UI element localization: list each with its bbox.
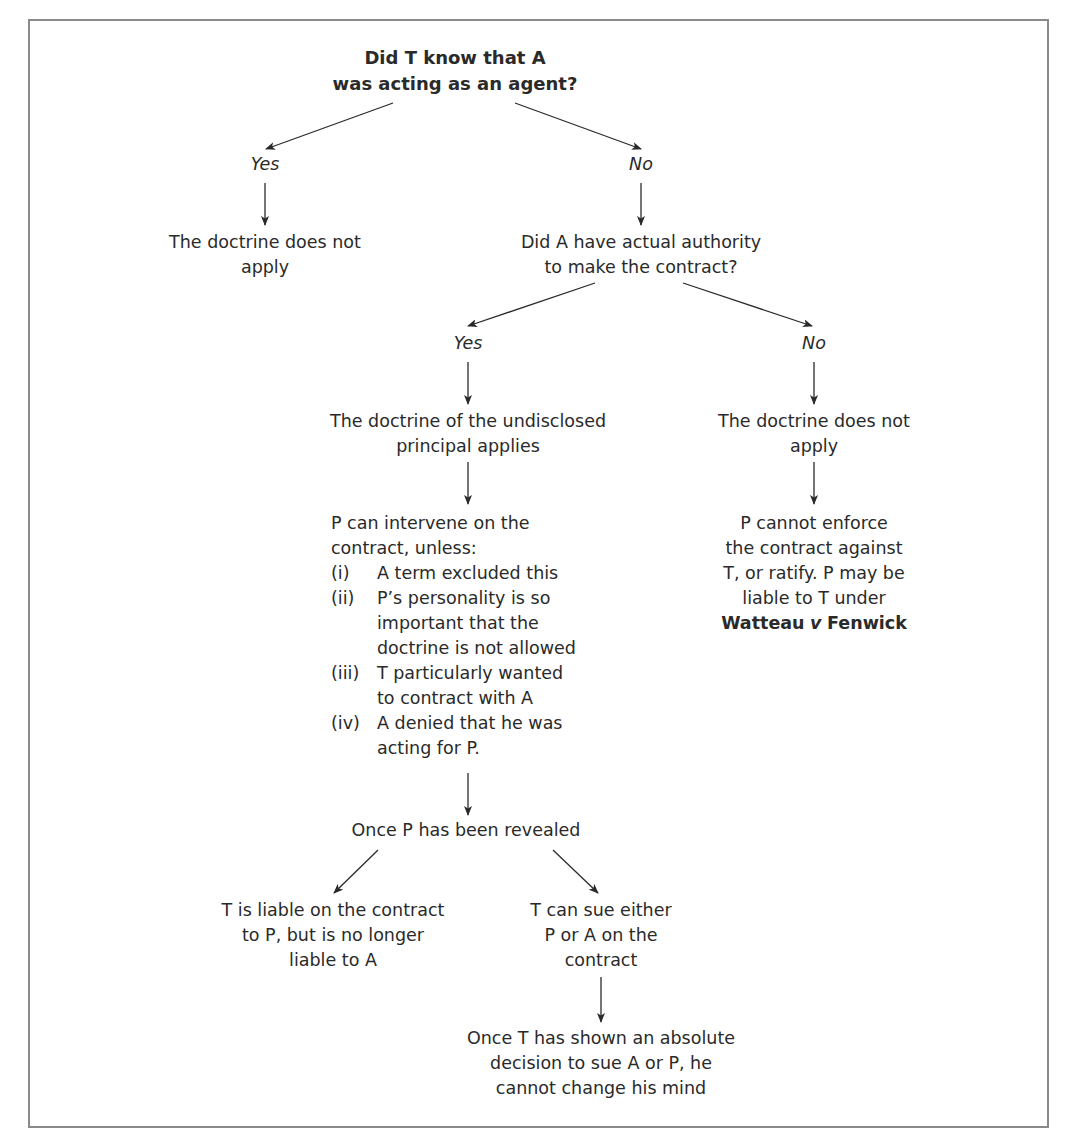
outcome-doctrine-applies: The doctrine of the undisclosed principa… — [330, 409, 606, 459]
branch2-yes-label: Yes — [454, 333, 483, 353]
exception-number: (iv) — [331, 711, 377, 761]
text-line: The doctrine does not — [718, 409, 910, 434]
outcome-t-liable-to-p: T is liable on the contract to P, but is… — [222, 898, 445, 973]
text-line: liable to A — [222, 948, 445, 973]
node-p-revealed: Once P has been revealed — [352, 818, 581, 843]
text-line: A term excluded this — [377, 561, 558, 586]
text-line: P cannot enforce — [721, 511, 907, 536]
text-line: contract — [530, 948, 671, 973]
arrow-authority-to-no — [683, 283, 812, 326]
arrow-authority-to-yes — [468, 283, 595, 326]
text-line: T is liable on the contract — [222, 898, 445, 923]
exception-item: (iv) A denied that he was acting for P. — [331, 711, 576, 761]
outcome-absolute-decision: Once T has shown an absolute decision to… — [467, 1026, 735, 1101]
case-citation: Watteau v Fenwick — [721, 611, 907, 636]
text-line: acting for P. — [377, 736, 562, 761]
text-line: apply — [169, 255, 361, 280]
case-versus: v — [810, 613, 821, 633]
text-line: T particularly wanted — [377, 661, 563, 686]
intro-line: contract, unless: — [331, 536, 576, 561]
exception-item: (ii) P’s personality is so important tha… — [331, 586, 576, 661]
text-line: T, or ratify. P may be — [721, 561, 907, 586]
arrow-revealed-to-liable — [334, 850, 378, 893]
intro-line: P can intervene on the — [331, 511, 576, 536]
text-line: The doctrine does not — [169, 230, 361, 255]
text-line: doctrine is not allowed — [377, 636, 576, 661]
text-line: Did A have actual authority — [521, 230, 761, 255]
text-line: P or A on the — [530, 923, 671, 948]
text-line: T can sue either — [530, 898, 671, 923]
intervention-conditions: P can intervene on the contract, unless:… — [331, 511, 576, 761]
case-name-part1: Watteau — [721, 613, 804, 633]
text-line: liable to T under — [721, 586, 907, 611]
exception-text: P’s personality is so important that the… — [377, 586, 576, 661]
text-line: to make the contract? — [521, 255, 761, 280]
exception-text: A term excluded this — [377, 561, 558, 586]
text-line: apply — [718, 434, 910, 459]
root-question: Did T know that A was acting as an agent… — [333, 45, 578, 97]
question-actual-authority: Did A have actual authority to make the … — [521, 230, 761, 280]
text-line: important that the — [377, 611, 576, 636]
exception-number: (iii) — [331, 661, 377, 711]
outcome-cannot-enforce: P cannot enforce the contract against T,… — [721, 511, 907, 636]
branch1-yes-label: Yes — [251, 154, 280, 174]
exception-item: (iii) T particularly wanted to contract … — [331, 661, 576, 711]
root-question-line1: Did T know that A — [333, 45, 578, 71]
arrow-root-to-yes — [266, 103, 393, 149]
text-line: P’s personality is so — [377, 586, 576, 611]
outcome-doctrine-not-apply-1: The doctrine does not apply — [169, 230, 361, 280]
outcome-doctrine-not-apply-2: The doctrine does not apply — [718, 409, 910, 459]
text-line: Once T has shown an absolute — [467, 1026, 735, 1051]
branch2-no-label: No — [802, 333, 826, 353]
text-line: principal applies — [330, 434, 606, 459]
exception-text: A denied that he was acting for P. — [377, 711, 562, 761]
root-question-line2: was acting as an agent? — [333, 71, 578, 97]
arrow-revealed-to-sue-either — [553, 850, 598, 893]
exception-number: (ii) — [331, 586, 377, 661]
branch1-no-label: No — [629, 154, 653, 174]
arrow-root-to-no — [515, 103, 641, 149]
case-name-part2: Fenwick — [827, 613, 907, 633]
text-line: cannot change his mind — [467, 1076, 735, 1101]
outcome-t-can-sue-either: T can sue either P or A on the contract — [530, 898, 671, 973]
text-line: A denied that he was — [377, 711, 562, 736]
text-line: to contract with A — [377, 686, 563, 711]
text-line: to P, but is no longer — [222, 923, 445, 948]
exception-text: T particularly wanted to contract with A — [377, 661, 563, 711]
text-line: the contract against — [721, 536, 907, 561]
text-line: decision to sue A or P, he — [467, 1051, 735, 1076]
exception-item: (i) A term excluded this — [331, 561, 576, 586]
exception-number: (i) — [331, 561, 377, 586]
text-line: The doctrine of the undisclosed — [330, 409, 606, 434]
